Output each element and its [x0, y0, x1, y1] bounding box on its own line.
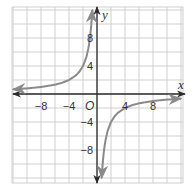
x-tick-label: 8 — [150, 100, 156, 112]
x-tick-label: −4 — [63, 100, 76, 112]
labels: x y O −8−44884−4−8 — [35, 7, 184, 156]
origin-label: O — [85, 99, 94, 113]
y-tick-label: 8 — [87, 32, 93, 44]
y-tick-label: −4 — [80, 116, 93, 128]
y-tick-label: 4 — [87, 60, 93, 72]
axes — [13, 7, 185, 183]
curve-right-branch — [102, 99, 181, 178]
y-axis-label: y — [100, 7, 108, 22]
y-tick-label: −8 — [80, 144, 93, 156]
x-tick-label: −8 — [35, 100, 48, 112]
curve-left-branch — [13, 10, 92, 89]
x-axis-label: x — [177, 77, 184, 92]
x-tick-label: 4 — [122, 100, 128, 112]
hyperbola-chart: x y O −8−44884−4−8 — [0, 0, 194, 193]
